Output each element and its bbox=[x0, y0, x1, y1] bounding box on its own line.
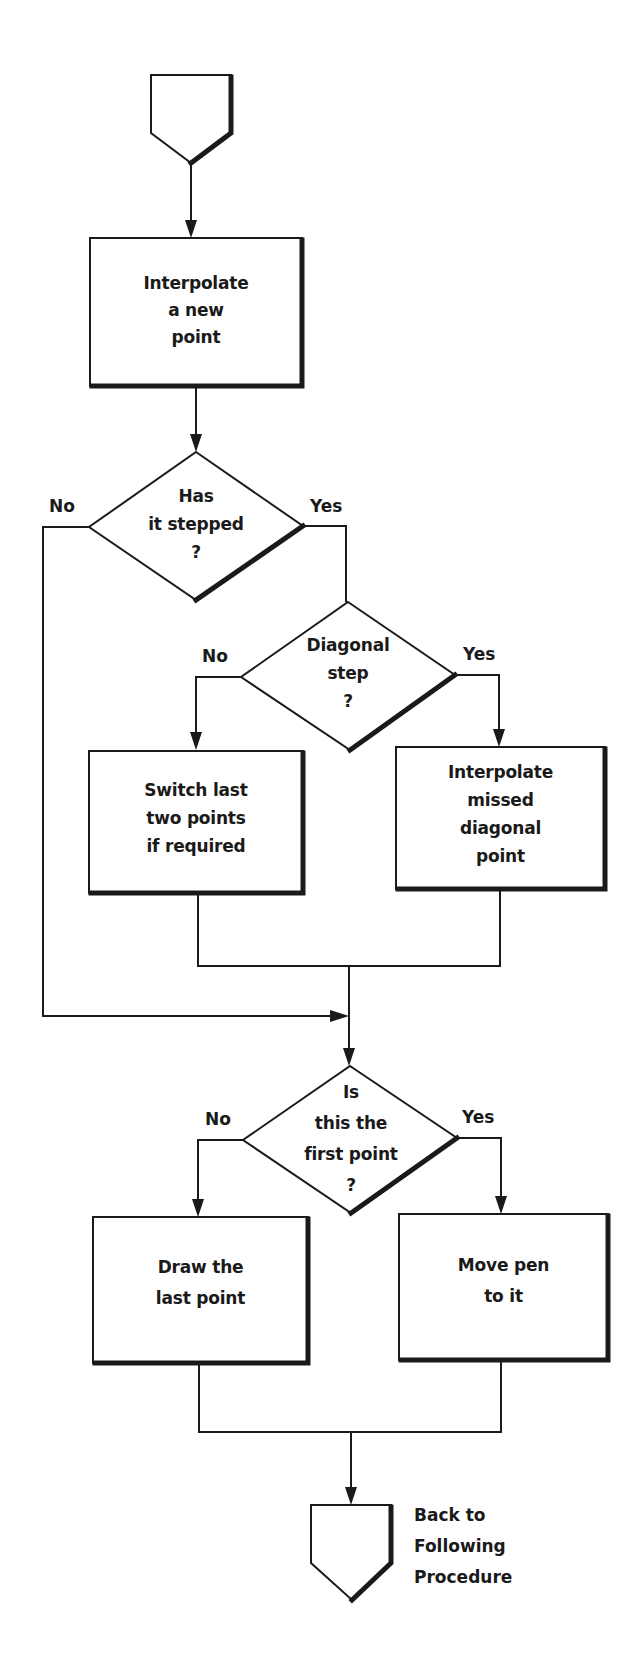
branch-label-diagonal-yes: Yes bbox=[463, 644, 495, 664]
end-connector bbox=[311, 1505, 391, 1600]
label-first-point: Is this the first point ? bbox=[265, 1077, 437, 1201]
edge-merge-upper bbox=[198, 891, 500, 1066]
edge-first-point-no bbox=[192, 1140, 243, 1217]
edge-diagonal-no bbox=[190, 677, 241, 750]
edge-merge-lower bbox=[199, 1362, 501, 1505]
edge-start-to-interpolate bbox=[185, 163, 197, 238]
start-connector bbox=[151, 75, 231, 163]
branch-label-has-stepped-yes: Yes bbox=[310, 496, 342, 516]
edge-diagonal-yes bbox=[455, 675, 505, 747]
label-draw-last-point: Draw the last point bbox=[93, 1252, 308, 1314]
label-switch-last-two-points: Switch last two points if required bbox=[89, 776, 303, 860]
branch-label-first-point-yes: Yes bbox=[462, 1107, 494, 1127]
label-back-to-following-procedure: Back to Following Procedure bbox=[414, 1500, 512, 1593]
branch-label-first-point-no: No bbox=[205, 1109, 231, 1129]
edge-interpolate-to-has-stepped bbox=[190, 388, 202, 452]
label-move-pen: Move pen to it bbox=[399, 1250, 608, 1312]
label-diagonal-step: Diagonal step ? bbox=[262, 631, 434, 715]
edge-first-point-yes bbox=[457, 1138, 507, 1214]
branch-label-has-stepped-no: No bbox=[49, 496, 75, 516]
branch-label-diagonal-no: No bbox=[202, 646, 228, 666]
label-interpolate-new-point: Interpolate a new point bbox=[90, 270, 302, 351]
label-interpolate-missed-diagonal: Interpolate missed diagonal point bbox=[396, 758, 605, 870]
label-has-it-stepped: Has it stepped ? bbox=[110, 482, 282, 566]
edge-has-stepped-yes bbox=[303, 526, 346, 602]
